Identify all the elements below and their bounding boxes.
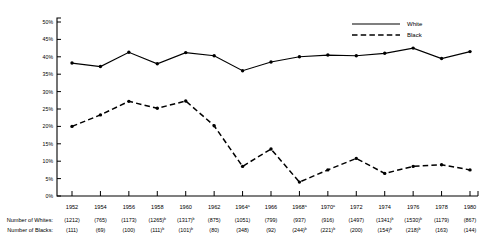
x-axis-year-label: 1956: [123, 204, 135, 210]
annotation-value: (154)b: [377, 227, 392, 233]
y-axis-tick-label: 10%: [43, 158, 54, 164]
annotation-row-label: Number of Blacks:: [7, 227, 53, 233]
y-axis-tick-label: 30%: [43, 89, 54, 95]
y-axis-tick-label: 45%: [43, 36, 54, 42]
data-point: [241, 165, 244, 168]
annotation-value: (799): [265, 217, 278, 223]
annotation-value: (218)b: [406, 227, 421, 233]
annotation-value: (100): [123, 227, 136, 233]
annotation-value: (1173): [121, 217, 136, 223]
data-point: [70, 61, 73, 64]
data-point: [184, 99, 187, 102]
annotation-value: (69): [96, 227, 106, 233]
data-point: [156, 107, 159, 110]
y-axis-tick-label: 0%: [46, 193, 54, 199]
x-axis-year-label: 1962: [208, 204, 220, 210]
annotation-value: (916): [322, 217, 335, 223]
annotation-value: (92): [266, 227, 276, 233]
y-axis-tick-label: 35%: [43, 71, 54, 77]
x-axis-year-label: 1980: [464, 204, 476, 210]
x-axis-year-label: 1976: [407, 204, 419, 210]
data-point: [127, 51, 130, 54]
x-axis-year-label: 1966: [265, 204, 277, 210]
data-point: [355, 157, 358, 160]
data-point: [212, 124, 215, 127]
x-axis-year-label: 1964a: [235, 204, 249, 210]
data-point: [269, 147, 272, 150]
data-point: [156, 62, 159, 65]
x-axis-year-label: 1960: [179, 204, 191, 210]
data-point: [411, 46, 414, 49]
annotation-value: (80): [209, 227, 219, 233]
annotation-value: (937): [293, 217, 306, 223]
annotation-rows: Number of Whites:(1212)(765)(1173)(1265)…: [7, 217, 477, 233]
data-point: [70, 125, 73, 128]
y-axis-tick-label: 15%: [43, 141, 54, 147]
line-chart: 50%45%40%35%30%25%20%15%10%5%0% WhiteBla…: [0, 0, 487, 245]
data-series-group: [70, 46, 471, 183]
chart-container: 50%45%40%35%30%25%20%15%10%5%0% WhiteBla…: [0, 0, 487, 245]
y-axis: 50%45%40%35%30%25%20%15%10%5%0%: [43, 18, 478, 199]
data-point: [99, 65, 102, 68]
annotation-value: (200): [350, 227, 363, 233]
annotation-value: (244)b: [292, 227, 307, 233]
x-axis-year-label: 1978: [435, 204, 447, 210]
data-point: [127, 100, 130, 103]
annotation-value: (111): [66, 227, 78, 233]
x-axis-year-label: 1970a: [321, 204, 335, 210]
data-point: [383, 172, 386, 175]
x-axis-year-label: 1958: [151, 204, 163, 210]
annotation-value: (1497): [348, 217, 364, 223]
annotation-value: (144): [464, 227, 477, 233]
data-point: [355, 54, 358, 57]
annotation-value: (875): [208, 217, 221, 223]
x-axis-year-label: 1954: [94, 204, 106, 210]
annotation-value: (101)b: [178, 227, 193, 233]
annotation-value: (1179): [434, 217, 449, 223]
chart-legend: WhiteBlack: [352, 21, 423, 38]
x-axis-year-label: 1968a: [292, 204, 306, 210]
annotation-value: (1051): [235, 217, 251, 223]
annotation-value: (111)b: [150, 227, 164, 233]
annotation-value: (1530)b: [404, 217, 422, 223]
y-axis-tick-label: 40%: [43, 54, 54, 60]
x-axis-year-label: 1974: [378, 204, 390, 210]
annotation-value: (867): [464, 217, 477, 223]
data-point: [184, 51, 187, 54]
data-point: [298, 55, 301, 58]
legend-label-white: White: [407, 21, 423, 27]
y-axis-tick-label: 5%: [46, 176, 54, 182]
data-point: [298, 180, 301, 183]
data-point: [411, 165, 414, 168]
annotation-value: (1341)b: [376, 217, 394, 223]
annotation-value: (1317)b: [177, 217, 195, 223]
series-line-black: [72, 101, 470, 182]
annotation-row-label: Number of Whites:: [7, 217, 54, 223]
y-axis-tick-label: 25%: [43, 106, 54, 112]
data-point: [269, 60, 272, 63]
data-point: [468, 50, 471, 53]
data-point: [326, 168, 329, 171]
annotation-value: (221)b: [321, 227, 336, 233]
x-axis-year-label: 1972: [350, 204, 362, 210]
data-point: [440, 163, 443, 166]
x-axis-tick-labels: 1952195419561958196019621964a19661968a19…: [66, 204, 476, 210]
annotation-value: (163): [435, 227, 448, 233]
data-point: [241, 69, 244, 72]
data-point: [440, 57, 443, 60]
data-point: [99, 113, 102, 116]
annotation-value: (1265)b: [148, 217, 166, 223]
x-axis-year-label: 1952: [66, 204, 78, 210]
legend-label-black: Black: [407, 32, 423, 38]
data-point: [383, 52, 386, 55]
annotation-value: (1212): [64, 217, 80, 223]
data-point: [326, 53, 329, 56]
y-axis-tick-label: 20%: [43, 123, 54, 129]
y-axis-tick-label: 50%: [43, 19, 54, 25]
x-axis: [72, 191, 478, 196]
annotation-value: (348): [236, 227, 249, 233]
series-line-white: [72, 48, 470, 71]
data-point: [212, 54, 215, 57]
annotation-value: (765): [94, 217, 107, 223]
data-point: [468, 168, 471, 171]
